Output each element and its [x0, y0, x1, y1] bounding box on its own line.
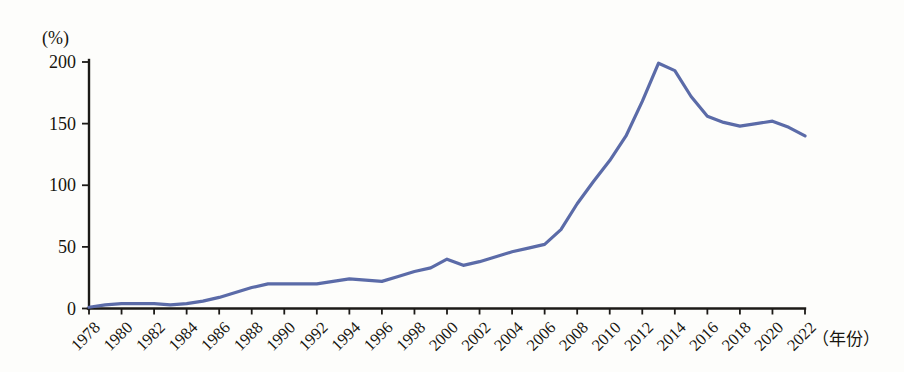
x-axis-tick-labels: 1978198019821984198619881990199219941996…	[67, 318, 820, 355]
y-tick-label: 150	[49, 114, 76, 134]
x-tick-label: 2018	[718, 318, 755, 355]
y-axis-unit-label: (%)	[42, 28, 69, 49]
line-chart-canvas: (%) 050100150200 19781980198219841986198…	[0, 0, 904, 372]
x-tick-label: 1994	[327, 318, 364, 355]
y-axis-tick-labels: 050100150200	[49, 52, 76, 319]
x-tick-label: 1984	[165, 318, 202, 355]
x-tick-label: 1992	[295, 318, 332, 355]
x-tick-label: 2014	[653, 318, 690, 355]
x-tick-label: 1998	[393, 318, 430, 355]
y-tick-label: 50	[58, 237, 76, 257]
x-tick-label: 1980	[100, 318, 137, 355]
data-series-line	[89, 63, 805, 307]
x-tick-label: 2002	[458, 318, 495, 355]
x-tick-label: 1978	[67, 318, 104, 355]
x-tick-label: 2006	[523, 318, 560, 355]
y-tick-label: 100	[49, 175, 76, 195]
x-tick-label: 2020	[751, 318, 788, 355]
x-tick-label: 1988	[230, 318, 267, 355]
x-tick-label: 2012	[620, 318, 657, 355]
x-tick-label: 2000	[425, 318, 462, 355]
x-tick-label: 2004	[490, 318, 527, 355]
y-tick-label: 0	[67, 299, 76, 319]
x-tick-label: 1986	[197, 318, 234, 355]
x-tick-label: 1982	[132, 318, 169, 355]
x-tick-label: 1996	[360, 318, 397, 355]
x-tick-label: 2010	[588, 318, 625, 355]
chart-figure: (%) 050100150200 19781980198219841986198…	[0, 0, 904, 372]
x-tick-label: 1990	[262, 318, 299, 355]
x-axis-title: （年份）	[812, 330, 880, 349]
x-tick-label: 2016	[685, 318, 722, 355]
x-tick-label: 2008	[555, 318, 592, 355]
y-tick-label: 200	[49, 52, 76, 72]
